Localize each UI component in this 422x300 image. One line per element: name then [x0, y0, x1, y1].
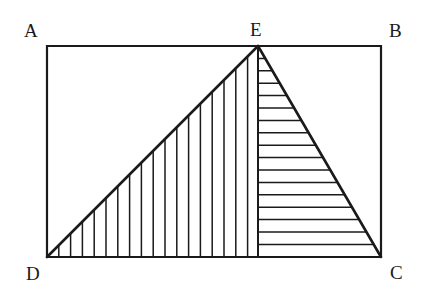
geometry-canvas [0, 0, 422, 300]
vertex-label-e: E [250, 20, 262, 39]
vertex-label-c: C [390, 263, 403, 282]
rectangle-abcd [47, 46, 381, 257]
vertex-label-a: A [24, 21, 38, 40]
vertex-label-b: B [389, 21, 402, 40]
segment-ec [258, 46, 381, 257]
geometry-figure: A B E D C [0, 0, 422, 300]
vertex-label-d: D [26, 264, 40, 283]
